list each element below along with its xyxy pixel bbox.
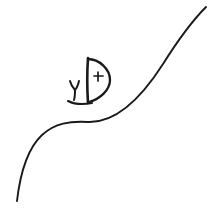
sketch-canvas: Black ink line drawing on a white backgr… xyxy=(0,0,211,216)
mast-line xyxy=(87,58,88,103)
background-rect xyxy=(0,0,211,216)
sketch-drawing xyxy=(0,0,211,216)
y-tick-stroke-stem xyxy=(74,90,75,100)
